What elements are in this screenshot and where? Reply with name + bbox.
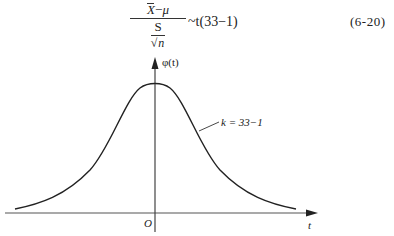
t-distribution-plot	[0, 0, 394, 236]
curve-label: k = 33−1	[221, 116, 263, 128]
origin-label: O	[144, 217, 152, 229]
x-axis-arrow-icon	[306, 210, 318, 217]
y-axis-arrow-icon	[152, 57, 159, 69]
x-axis-label: t	[308, 219, 311, 231]
curve-label-leader	[199, 122, 219, 131]
y-axis-label: φ(t)	[162, 56, 179, 68]
